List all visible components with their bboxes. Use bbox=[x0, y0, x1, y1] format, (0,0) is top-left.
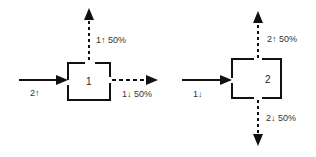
right-node-label: 2 bbox=[265, 75, 271, 85]
right-input-arrow bbox=[182, 75, 232, 85]
left-output-right-label: 1↓ 50% bbox=[122, 89, 152, 99]
right-output-down-label: 2↓ 50% bbox=[266, 113, 296, 123]
left-output-up-arrow bbox=[84, 8, 94, 60]
left-node-label: 1 bbox=[86, 77, 92, 87]
left-input-arrow bbox=[19, 75, 68, 85]
right-node-box bbox=[232, 59, 281, 98]
left-output-right-arrow bbox=[112, 75, 158, 85]
right-output-down-arrow bbox=[253, 100, 263, 146]
left-input-label: 2↑ bbox=[30, 88, 40, 98]
right-output-up-arrow bbox=[253, 11, 263, 58]
right-output-up-label: 2↑ 50% bbox=[267, 34, 297, 44]
left-output-up-label: 1↑ 50% bbox=[96, 35, 126, 45]
right-input-label: 1↓ bbox=[193, 89, 203, 99]
